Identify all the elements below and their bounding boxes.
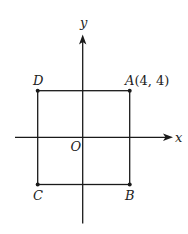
y-axis-label: y: [79, 15, 88, 30]
coordinate-diagram: y x O D A(4, 4) C B: [0, 0, 188, 234]
point-d-label: D: [32, 73, 44, 88]
point-a-coords: (4, 4): [134, 73, 169, 88]
point-d-dot: [36, 89, 40, 93]
point-c-label: C: [33, 188, 43, 203]
origin-label: O: [71, 139, 82, 154]
point-a-label: A: [124, 73, 134, 88]
point-b-dot: [128, 183, 132, 187]
point-a-dot: [128, 89, 132, 93]
point-a-label-group: A(4, 4): [124, 73, 169, 88]
point-b-label: B: [124, 188, 135, 203]
x-axis-label: x: [175, 130, 183, 145]
point-c-dot: [36, 183, 40, 187]
